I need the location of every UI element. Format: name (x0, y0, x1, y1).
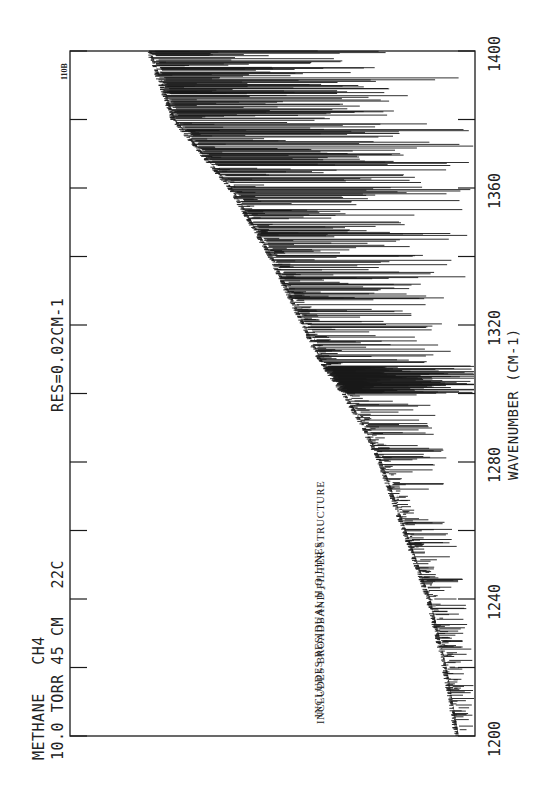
tick-label-1200: 1200 (486, 721, 504, 757)
note-broadband-filter: INCLUDES BROADBAND FILTER STRUCTURE (315, 481, 326, 724)
resolution-label: RES=0.02CM-1 (49, 298, 67, 412)
tick-label-1400: 1400 (486, 36, 504, 72)
tick-label-1360: 1360 (486, 173, 504, 209)
tick-label-1320: 1320 (486, 310, 504, 346)
title-line-1: METHANE CH4 (30, 636, 48, 760)
tick-label-1280: 1280 (486, 447, 504, 483)
tick-label-1240: 1240 (486, 584, 504, 620)
x-axis-title: WAVENUMBER (CM-1) (505, 328, 521, 480)
plate-id-label: 110B (60, 63, 69, 80)
spectrum-chart (0, 0, 549, 790)
title-line-2: 10.0 TORR 45 CM 22C (49, 560, 67, 760)
